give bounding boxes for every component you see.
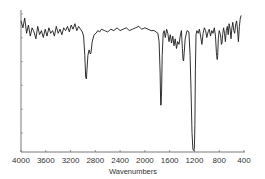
x-tick-label: 800 [213, 156, 227, 165]
x-tick-label: 1600 [161, 156, 179, 165]
x-axis-title: Wavenumbers [109, 167, 157, 176]
x-tick-label: 2000 [136, 156, 154, 165]
x-tick-label: 2800 [86, 156, 104, 165]
spectrum-line [21, 15, 241, 150]
x-tick-label: 4000 [12, 156, 30, 165]
x-tick-label: 3200 [62, 156, 80, 165]
x-tick-label: 1200 [186, 156, 204, 165]
ir-spectrum-chart: 40003600320028002400200016001200800400 W… [0, 0, 265, 179]
x-axis-tick-labels: 40003600320028002400200016001200800400 [12, 156, 251, 165]
x-tick-label: 400 [237, 156, 251, 165]
x-tick-label: 2400 [111, 156, 129, 165]
x-tick-label: 3600 [37, 156, 55, 165]
